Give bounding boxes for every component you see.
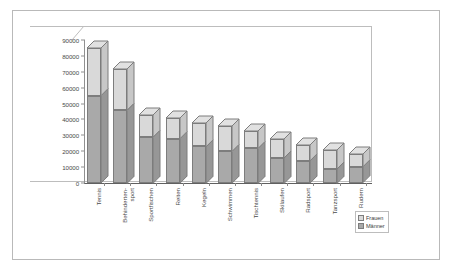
x-axis-label: Schwimmen xyxy=(227,188,234,221)
x-axis-label: Rudern xyxy=(358,188,365,208)
x-axis-tick-mark xyxy=(156,183,157,186)
y-axis-tick-label: 40000 xyxy=(62,116,79,123)
bar-3d-faces xyxy=(244,124,265,183)
y-axis-tick-label: 50000 xyxy=(62,100,79,107)
y-axis-tick-mark xyxy=(81,119,85,120)
bar-column[interactable] xyxy=(139,108,153,183)
x-axis-label: Tischtennis xyxy=(253,188,260,219)
y-axis-tick-mark xyxy=(81,151,85,152)
chart-screenshot: 0100002000030000400005000060000700008000… xyxy=(0,0,453,272)
y-axis-tick-mark xyxy=(81,87,85,88)
bar-3d-faces xyxy=(349,147,370,183)
x-axis-tick-mark xyxy=(287,183,288,186)
bar-3d-faces xyxy=(113,62,134,183)
bar-column[interactable] xyxy=(218,119,232,183)
x-axis-label: Tennis xyxy=(96,188,103,206)
bar-column[interactable] xyxy=(349,147,363,183)
bar-3d-faces xyxy=(192,116,213,183)
y-axis-tick-mark xyxy=(81,167,85,168)
bar-3d-faces xyxy=(139,108,160,183)
x-axis-label: Skilaufen xyxy=(279,188,286,213)
bar-column[interactable] xyxy=(113,62,127,183)
bar-column[interactable] xyxy=(323,143,337,183)
y-axis-tick-mark xyxy=(81,183,85,184)
y-axis-tick-mark xyxy=(81,55,85,56)
x-axis-label: Sportfischen xyxy=(148,188,155,222)
x-axis-label: Radsport xyxy=(305,188,312,213)
y-axis-tick-mark xyxy=(81,135,85,136)
x-axis-tick-mark xyxy=(313,183,314,186)
x-axis-label: Tanzsport xyxy=(332,188,339,214)
bar-column[interactable] xyxy=(166,111,180,183)
x-axis-tick-mark xyxy=(340,183,341,186)
bar-column[interactable] xyxy=(270,132,284,183)
legend-swatch xyxy=(358,215,364,221)
x-axis-tick-mark xyxy=(130,183,131,186)
y-axis-tick-label: 70000 xyxy=(62,68,79,75)
legend-label: Männer xyxy=(366,223,385,229)
y-axis-tick-label: 30000 xyxy=(62,132,79,139)
y-axis-tick-mark xyxy=(81,71,85,72)
x-axis-label: Reiten xyxy=(175,188,182,206)
bar-3d-faces xyxy=(218,119,239,183)
y-axis-tick-label: 0 xyxy=(76,180,79,187)
chart-3d-wall-top xyxy=(72,26,372,40)
bar-3d-faces xyxy=(87,41,108,183)
bar-column[interactable] xyxy=(192,116,206,183)
x-axis-tick-mark xyxy=(366,183,367,186)
y-axis-tick-label: 10000 xyxy=(62,164,79,171)
bar-column[interactable] xyxy=(296,138,310,183)
bar-3d-faces xyxy=(323,143,344,183)
bar-column[interactable] xyxy=(87,41,101,183)
legend-item[interactable]: Frauen xyxy=(358,215,385,222)
x-axis-label: Kegeln xyxy=(201,188,208,207)
x-axis-tick-mark xyxy=(183,183,184,186)
x-axis-label: Behinderten-sport xyxy=(122,188,135,223)
x-axis-tick-mark xyxy=(235,183,236,186)
legend-item[interactable]: Männer xyxy=(358,222,385,229)
y-axis-tick-label: 20000 xyxy=(62,148,79,155)
y-axis-tick-mark xyxy=(81,103,85,104)
legend-label: Frauen xyxy=(366,215,383,221)
chart-legend: FrauenMänner xyxy=(355,211,389,233)
y-axis-tick-mark xyxy=(81,40,85,41)
x-axis-tick-mark xyxy=(261,183,262,186)
x-axis-tick-mark xyxy=(209,183,210,186)
bar-column[interactable] xyxy=(244,124,258,183)
y-axis-tick-label: 80000 xyxy=(62,52,79,59)
legend-swatch xyxy=(358,223,364,229)
x-axis-tick-mark xyxy=(104,183,105,186)
y-axis-line xyxy=(84,40,85,183)
bar-3d-faces xyxy=(296,138,317,183)
bar-3d-faces xyxy=(166,111,187,183)
bar-3d-faces xyxy=(270,132,291,183)
y-axis-tick-label: 60000 xyxy=(62,84,79,91)
y-axis-tick-label: 90000 xyxy=(62,37,79,44)
